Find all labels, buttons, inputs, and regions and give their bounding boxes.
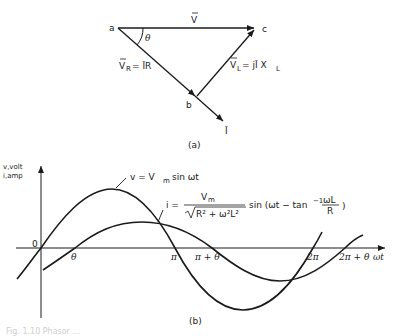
phasor-i bbox=[195, 96, 223, 121]
figure: a c b θ V V R = ĪR V L = jĪ X L Ī (a) v,… bbox=[0, 0, 396, 336]
phasor-diagram: a c b θ V V R = ĪR V L = jĪ X L Ī (a) bbox=[109, 13, 280, 150]
tick-pi: π bbox=[170, 252, 178, 262]
v-equation: v = V bbox=[130, 172, 156, 182]
vr-label: V bbox=[119, 61, 126, 71]
point-b-label: b bbox=[186, 100, 192, 110]
i-inverse-superscript: −1 bbox=[313, 197, 323, 205]
point-a-label: a bbox=[109, 23, 115, 33]
tick-2pi-plus-theta: 2π + θ bbox=[338, 252, 370, 262]
v-equation-subscript: m bbox=[163, 177, 170, 185]
v-leader bbox=[116, 178, 126, 188]
i-denominator: R² + ω²L² bbox=[196, 209, 239, 219]
vr-subscript: R bbox=[126, 65, 131, 73]
i-frac-numerator: ωL bbox=[323, 195, 336, 205]
y-axis-label-voltage: v,volt bbox=[3, 163, 23, 171]
i-leader bbox=[158, 210, 163, 222]
i-equation-rest: sin (ωt − tan bbox=[249, 200, 307, 210]
tick-theta: θ bbox=[71, 252, 77, 262]
point-c-label: c bbox=[262, 24, 267, 34]
y-axis-label-current: i,amp bbox=[3, 172, 23, 180]
vl-eq-subscript: L bbox=[276, 65, 280, 73]
theta-label: θ bbox=[145, 33, 151, 43]
waveform-plot: v,volt i,amp 0 ωt θ π π + θ 2π 2π + θ v … bbox=[3, 163, 385, 326]
i-frac-denominator: R bbox=[327, 206, 333, 216]
v-phasor-label: V bbox=[191, 15, 198, 25]
origin-label: 0 bbox=[32, 239, 38, 249]
theta-arc bbox=[137, 28, 143, 45]
tick-pi-plus-theta: π + θ bbox=[194, 252, 220, 262]
vl-equation: = jĪ X bbox=[242, 60, 267, 70]
x-axis-label: ωt bbox=[373, 252, 384, 262]
caption-b: (b) bbox=[189, 316, 202, 326]
i-equation-lhs: i = bbox=[166, 200, 179, 210]
phasor-vr bbox=[118, 28, 195, 96]
i-close-paren: ) bbox=[342, 201, 346, 211]
vl-subscript: L bbox=[237, 65, 241, 73]
caption-a: (a) bbox=[188, 140, 201, 150]
i-phasor-label: Ī bbox=[225, 126, 228, 136]
i-numerator-subscript: m bbox=[208, 196, 215, 204]
figure-caption: Fig. 1.10 Phasor ... bbox=[6, 327, 80, 336]
vl-label: V bbox=[230, 60, 237, 70]
i-numerator: V bbox=[201, 192, 208, 202]
v-equation-rest: sin ωt bbox=[172, 172, 199, 182]
vr-equation: = ĪR bbox=[132, 61, 151, 71]
